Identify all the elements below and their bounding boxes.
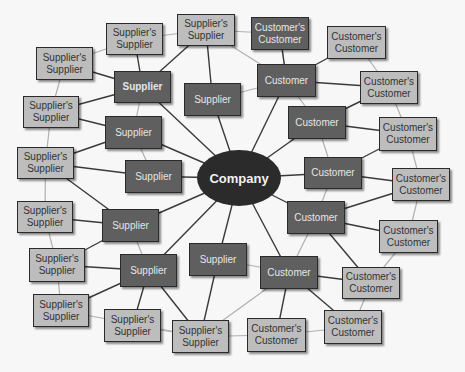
supplier-supplier-node: Supplier'sSupplier — [172, 320, 229, 353]
supplier-supplier-node: Supplier'sSupplier — [106, 23, 163, 55]
supplier-supplier-node: Supplier'sSupplier — [177, 14, 235, 46]
supplier-supplier-node: Supplier'sSupplier — [23, 96, 79, 128]
supplier-node: Supplier — [184, 83, 241, 116]
customer-customer-node: Customer'sCustomer — [379, 220, 438, 253]
customer-customer-node: Customer'sCustomer — [324, 310, 382, 344]
customer-customer-node: Customer'sCustomer — [379, 117, 437, 151]
supplier-node: Supplier — [105, 116, 162, 149]
company-network-diagram: Supplier'sSupplierSupplier'sSupplierSupp… — [0, 0, 465, 372]
supplier-supplier-node: Supplier'sSupplier — [29, 248, 85, 282]
supplier-supplier-node: Supplier'sSupplier — [17, 201, 73, 233]
customer-customer-node: Customer'sCustomer — [342, 267, 400, 299]
customer-customer-node: Customer'sCustomer — [392, 168, 450, 201]
company-node: Company — [197, 150, 281, 206]
supplier-node: Supplier — [120, 254, 177, 287]
supplier-supplier-node: Supplier'sSupplier — [33, 294, 89, 327]
customer-node: Customer — [288, 106, 346, 139]
customer-node: Customer — [304, 157, 362, 189]
supplier-node: Supplier — [189, 243, 247, 276]
customer-customer-node: Customer'sCustomer — [251, 17, 309, 50]
customer-customer-node: Customer'sCustomer — [327, 26, 386, 59]
customer-node: Customer — [260, 256, 318, 289]
customer-customer-node: Customer'sCustomer — [247, 318, 306, 352]
customer-node: Customer — [257, 64, 316, 97]
supplier-supplier-node: Supplier'sSupplier — [17, 147, 74, 179]
customer-node: Customer — [287, 201, 345, 234]
supplier-supplier-node: Supplier'sSupplier — [104, 309, 161, 342]
supplier-node: Supplier — [125, 160, 182, 193]
supplier-node: Supplier — [102, 209, 159, 242]
supplier-node: Supplier — [114, 71, 171, 103]
supplier-supplier-node: Supplier'sSupplier — [36, 47, 93, 80]
customer-customer-node: Customer'sCustomer — [360, 71, 418, 104]
